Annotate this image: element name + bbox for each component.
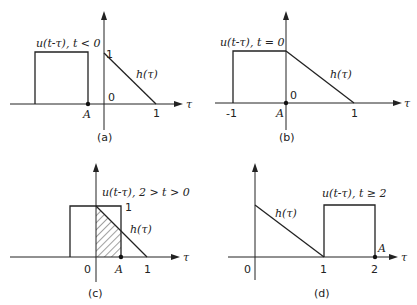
tick-one-x: 1 bbox=[144, 263, 151, 276]
tick-neg-one: -1 bbox=[226, 107, 237, 120]
caption: (a) bbox=[97, 131, 112, 144]
overlap-hatch bbox=[96, 206, 121, 257]
tick-one-y: 1 bbox=[106, 48, 113, 61]
panel-b: u(t-τ), t = 0 h(τ) -1 0 1 A τ (b) bbox=[215, 11, 411, 144]
vertical-axis-arrow-icon bbox=[93, 163, 99, 172]
tick-A: A bbox=[82, 108, 91, 121]
tau-label: τ bbox=[401, 251, 408, 264]
panel-a: u(t-τ), t < 0 h(τ) 1 0 1 A τ (a) bbox=[10, 11, 193, 144]
tick-origin: 0 bbox=[84, 263, 91, 276]
u-rect bbox=[35, 52, 88, 104]
tick-one-y: 1 bbox=[125, 201, 132, 214]
tick-one-x: 1 bbox=[351, 107, 358, 120]
u-label: u(t-τ), 2 > t > 0 bbox=[102, 186, 190, 199]
u-label: u(t-τ), t ≥ 2 bbox=[322, 187, 387, 200]
tick-A: A bbox=[275, 107, 284, 120]
tick-A: A bbox=[377, 242, 386, 255]
convolution-figure: u(t-τ), t < 0 h(τ) 1 0 1 A τ (a) u(t-τ),… bbox=[0, 0, 417, 305]
caption: (c) bbox=[88, 287, 103, 300]
h-label: h(τ) bbox=[136, 68, 158, 81]
h-label: h(τ) bbox=[330, 68, 352, 81]
tick-A: A bbox=[114, 263, 123, 276]
tau-axis-arrow-icon bbox=[171, 254, 180, 260]
vertical-axis-arrow-icon bbox=[283, 11, 289, 20]
caption: (d) bbox=[314, 287, 330, 300]
tick-origin: 0 bbox=[290, 89, 297, 102]
vertical-axis-arrow-icon bbox=[101, 11, 107, 20]
tau-axis-arrow-icon bbox=[389, 254, 398, 260]
u-rect bbox=[324, 205, 375, 257]
tau-label: τ bbox=[186, 98, 193, 111]
tick-origin: 0 bbox=[244, 263, 251, 276]
tau-label: τ bbox=[404, 97, 411, 110]
panel-c: u(t-τ), 2 > t > 0 h(τ) 1 0 1 A τ (c) bbox=[10, 163, 190, 300]
point-A bbox=[119, 255, 123, 259]
tick-origin: 0 bbox=[108, 91, 115, 104]
tick-two-x: 2 bbox=[371, 263, 378, 276]
vertical-axis-arrow-icon bbox=[252, 163, 258, 172]
tau-label: τ bbox=[183, 251, 190, 264]
u-label: u(t-τ), t = 0 bbox=[220, 36, 285, 49]
point-A bbox=[373, 255, 377, 259]
caption: (b) bbox=[279, 131, 295, 144]
tick-one-x: 1 bbox=[320, 263, 327, 276]
point-A bbox=[284, 101, 288, 105]
h-label: h(τ) bbox=[130, 223, 152, 236]
panel-d: u(t-τ), t ≥ 2 h(τ) 0 1 2 A τ (d) bbox=[228, 163, 408, 300]
tick-one-x: 1 bbox=[153, 107, 160, 120]
tau-axis-arrow-icon bbox=[174, 101, 183, 107]
point-A bbox=[86, 102, 90, 106]
u-label: u(t-τ), t < 0 bbox=[36, 37, 101, 50]
tau-axis-arrow-icon bbox=[393, 100, 402, 106]
u-rect bbox=[233, 51, 286, 103]
h-label: h(τ) bbox=[275, 207, 297, 220]
